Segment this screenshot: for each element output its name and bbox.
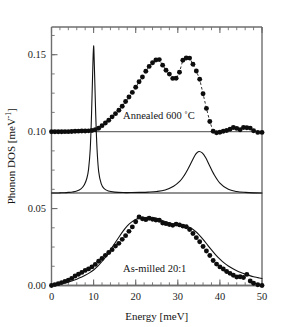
data-point (201, 244, 206, 249)
data-point (116, 108, 121, 113)
data-point (157, 57, 162, 62)
x-tick-label: 0 (49, 291, 54, 302)
data-connector-0 (52, 58, 263, 133)
data-point (127, 95, 132, 100)
y-tick-label: 0.00 (28, 280, 46, 291)
data-point (140, 75, 145, 80)
baselines-group (52, 132, 263, 286)
data-point (133, 85, 138, 90)
x-tick-label: 10 (88, 291, 99, 302)
data-point (127, 229, 132, 234)
data-point (143, 69, 148, 74)
data-point (251, 281, 256, 286)
data-point (187, 56, 192, 61)
annealed-label: Annealed 600 ˚C (123, 110, 195, 121)
data-point (177, 70, 182, 75)
data-point (147, 64, 152, 69)
data-point (255, 282, 260, 287)
x-tick-label: 50 (257, 291, 268, 302)
x-tick-label: 30 (173, 291, 184, 302)
data-point (194, 69, 199, 74)
data-point (207, 253, 212, 258)
y-tick-label: 0.05 (28, 203, 46, 214)
data-point (201, 91, 206, 96)
data-point (255, 130, 260, 135)
data-point (130, 90, 135, 95)
phonon-dos-figure: 010203040500.000.050.100.15 Energy [meV]… (0, 0, 302, 327)
data-point (204, 249, 209, 254)
x-axis-title: Energy [meV] (125, 310, 188, 322)
data-point (116, 241, 121, 246)
data-point (120, 237, 125, 242)
data-point (130, 224, 135, 229)
y-tick-label: 0.10 (28, 126, 46, 137)
data-point (211, 258, 216, 263)
data-point (197, 77, 202, 82)
chart-canvas: 010203040500.000.050.100.15 Energy [meV]… (0, 0, 302, 327)
y-tick-label: 0.15 (28, 49, 46, 60)
x-tick-label: 40 (215, 291, 226, 302)
data-point (120, 104, 125, 109)
as-milled-label: As-milled 20:1 (123, 263, 186, 274)
y-axis-title: Phonon DOS [meV-1] (4, 108, 16, 204)
data-point (164, 68, 169, 73)
data-point (174, 76, 179, 81)
data-point (207, 119, 212, 124)
data-point (194, 235, 199, 240)
series-group (49, 46, 264, 288)
data-point (204, 106, 209, 111)
data-point (191, 62, 196, 67)
data-point (137, 79, 142, 84)
data-point (160, 63, 165, 68)
data-point (123, 233, 128, 238)
data-point (191, 231, 196, 236)
series-0 (49, 55, 264, 135)
data-point (260, 130, 265, 135)
data-point (123, 99, 128, 104)
x-tick-label: 20 (130, 291, 141, 302)
data-point (167, 72, 172, 77)
data-point (197, 239, 202, 244)
data-point (251, 128, 256, 133)
data-point (260, 283, 265, 288)
